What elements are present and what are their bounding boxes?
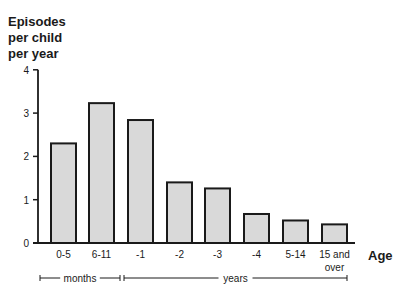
y-tick-label: 1 [23, 195, 29, 206]
x-tick-label: 15 and [319, 249, 350, 260]
bar [205, 188, 230, 243]
x-tick-label: 0-5 [56, 249, 71, 260]
x-tick-label: -2 [175, 249, 184, 260]
bar [167, 182, 192, 243]
x-tick-label: over [325, 262, 345, 273]
group-label: months [64, 273, 97, 284]
bar [51, 143, 76, 243]
bar [89, 103, 114, 243]
x-axis-title: Age [368, 248, 393, 263]
y-tick-label: 0 [23, 238, 29, 249]
y-tick-label: 3 [23, 108, 29, 119]
bar [283, 220, 308, 243]
y-tick-label: 4 [23, 65, 29, 76]
group-label: years [223, 273, 247, 284]
bar [322, 224, 347, 243]
bar [128, 120, 153, 243]
y-tick-label: 2 [23, 151, 29, 162]
x-tick-label: -4 [252, 249, 261, 260]
bar-chart: 012340-56-11-1-2-3-45-1415 andoverAgemon… [0, 0, 406, 299]
bar [244, 214, 269, 243]
x-tick-label: 6-11 [92, 249, 112, 260]
x-tick-label: -3 [213, 249, 222, 260]
x-tick-label: -1 [136, 249, 145, 260]
x-tick-label: 5-14 [285, 249, 305, 260]
